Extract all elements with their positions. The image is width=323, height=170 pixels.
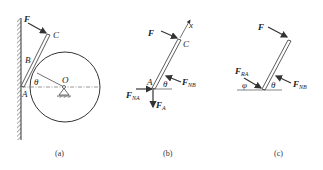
rod-ac xyxy=(262,40,291,90)
svg-text:A: A xyxy=(161,105,166,111)
svg-text:NB: NB xyxy=(298,84,307,90)
force-f-arrow xyxy=(268,27,287,37)
label-theta: θ xyxy=(163,79,168,89)
label-fnb: F NB xyxy=(292,79,307,90)
wall xyxy=(17,18,21,140)
label-fra: F RA xyxy=(234,66,249,77)
caption-b: (b) xyxy=(163,149,173,158)
label-a: A xyxy=(21,89,28,99)
label-fnb: F NB xyxy=(181,77,196,88)
force-f-arrow xyxy=(28,23,46,33)
svg-text:RA: RA xyxy=(240,71,249,77)
svg-text:F: F xyxy=(234,66,241,76)
label-phi: φ xyxy=(242,80,247,90)
label-c: C xyxy=(53,30,60,40)
figure-b: x F C A θ F NB F NA F A (b) xyxy=(125,20,196,158)
diagram-canvas: F C B A O θ (a) x F C A θ F NB F NA F xyxy=(0,0,323,170)
svg-text:F: F xyxy=(125,90,132,100)
svg-text:F: F xyxy=(181,77,188,87)
svg-text:F: F xyxy=(292,79,299,89)
label-b: B xyxy=(25,55,31,65)
force-fnb-arrow xyxy=(166,76,181,82)
svg-text:NB: NB xyxy=(187,82,196,88)
force-fnb-arrow xyxy=(276,76,291,83)
label-a: A xyxy=(146,77,153,87)
figure-a: F C B A O θ (a) xyxy=(17,14,100,158)
label-theta: θ xyxy=(34,77,39,87)
label-fna: F NA xyxy=(125,90,140,101)
svg-text:NA: NA xyxy=(131,95,140,101)
label-f: F xyxy=(257,22,264,32)
figure-c: F F RA φ θ F NB (c) xyxy=(234,22,307,158)
label-fa: F A xyxy=(155,100,166,111)
label-x: x xyxy=(188,20,193,30)
caption-c: (c) xyxy=(274,149,283,158)
caption-a: (a) xyxy=(55,149,64,158)
pin-support-o xyxy=(57,86,71,99)
label-f: F xyxy=(23,14,30,24)
label-c: C xyxy=(183,39,190,49)
svg-text:F: F xyxy=(155,100,162,110)
radius-ob xyxy=(37,73,64,87)
force-f-arrow xyxy=(161,31,177,38)
label-o: O xyxy=(62,75,69,85)
label-f: F xyxy=(147,28,154,38)
label-theta: θ xyxy=(271,80,276,90)
figure-root: F C B A O θ (a) x F C A θ F NB F NA F xyxy=(0,0,323,170)
